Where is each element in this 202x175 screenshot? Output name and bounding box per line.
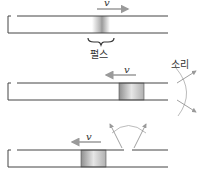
- sound-arrow-right: [134, 124, 146, 148]
- tube-top: [8, 16, 168, 33]
- velocity-label: v: [86, 131, 92, 142]
- wavefront-arc: [176, 68, 187, 116]
- tube-middle: [8, 83, 168, 100]
- velocity-label: v: [104, 0, 110, 8]
- pulse-blurred: [92, 16, 110, 33]
- sound-label: 소리: [171, 56, 189, 71]
- wavefront-arc: [112, 126, 146, 134]
- brace-icon: [88, 38, 114, 45]
- pulse-block: [81, 150, 106, 167]
- tube-bottom: [8, 150, 168, 167]
- diagram-canvas: [0, 0, 202, 175]
- pulse-block: [119, 83, 144, 100]
- sound-arrow-down: [177, 100, 196, 112]
- pulse-label: 펄스: [90, 46, 108, 61]
- velocity-label: v: [124, 64, 130, 75]
